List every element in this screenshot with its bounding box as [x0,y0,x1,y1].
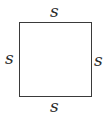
side-label-top: s [50,3,59,20]
side-label-left: s [5,50,14,67]
side-label-right: s [94,52,103,69]
side-label-bottom: s [50,98,59,115]
square-shape [19,22,92,97]
